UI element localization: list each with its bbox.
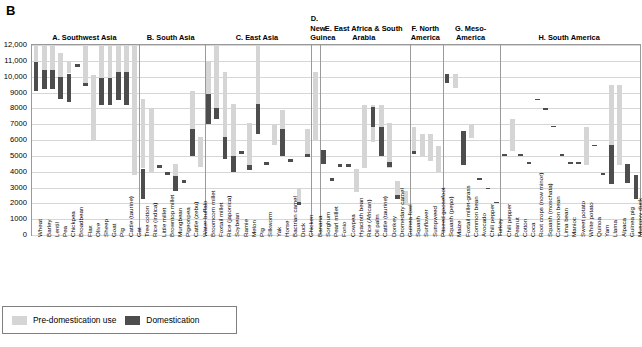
bar-segment-pre-domestication [206,61,211,94]
y-axis-tick-label: 3000 [0,182,27,191]
bar-column[interactable] [42,45,47,235]
bar-segment-domestication [502,154,507,156]
bar-segment-domestication [486,188,491,190]
group-header-a: A. Southwest Asia [31,33,138,42]
bar-segment-domestication [256,104,261,134]
bar-segment-pre-domestication [362,105,367,168]
bar-segment-pre-domestication [428,134,433,161]
bar-column[interactable] [617,45,622,235]
bar-column[interactable] [34,45,39,235]
bar-segment-domestication [330,178,335,181]
x-axis-tick-label: Chickpea [70,211,76,237]
bar-segment-pre-domestication [231,104,236,156]
bar-column[interactable] [568,45,573,235]
x-axis-tick-label: Sumpweed [432,206,438,237]
bar-segment-domestication [206,94,211,124]
bar-segment-domestication [264,162,269,165]
x-axis-tick-label: Rice (japonica) [226,196,232,237]
bar-segment-domestication [321,150,326,164]
bar-column[interactable] [50,45,55,235]
bar-segment-pre-domestication [58,53,63,77]
bar-column[interactable] [527,45,532,235]
x-axis-tick-label: Maize [456,220,462,237]
bar-segment-domestication [461,131,466,166]
bar-segment-pre-domestication [141,99,146,169]
x-axis-tick-label: Silkworm [267,212,273,237]
bar-column[interactable] [264,45,269,235]
bar-segment-pre-domestication [67,62,72,73]
x-axis-tick-label: Manioc [571,217,577,237]
x-axis-tick-label: Tree cotton [144,206,150,237]
bar-segment-domestication [625,164,630,183]
bar-segment-domestication [576,162,581,164]
bar-segment-pre-domestication [436,146,441,171]
x-axis-tick-label: Guinea fowl [407,204,413,237]
bar-segment-pre-domestication [214,45,219,108]
x-axis-tick-label: Cowpea [350,214,356,237]
bar-column[interactable] [346,45,351,235]
bar-segment-domestication [592,145,597,147]
bar-segment-pre-domestication [34,45,39,62]
bar-column[interactable] [420,45,425,235]
bar-segment-domestication [477,178,482,180]
x-axis-tick-label: Lima bean [563,208,569,237]
bar-segment-domestication [609,145,614,185]
x-axis-tick-label: Pig [119,228,125,237]
x-axis-tick-label: Sorghum [325,212,331,237]
y-axis-labels: 010002000300040005000600070008000900010,… [0,44,29,236]
bar-column[interactable] [58,45,63,235]
bar-column[interactable] [272,45,277,235]
bar-segment-domestication [551,126,556,128]
bar-segment-domestication [67,74,72,103]
bar-segment-domestication [560,154,565,156]
bar-segment-domestication [99,78,104,105]
bar-column[interactable] [518,45,523,235]
y-axis-tick-label: 9000 [0,87,27,96]
bar-column[interactable] [91,45,96,235]
bar-segment-domestication [124,72,129,105]
y-axis-tick-label: 1000 [0,214,27,223]
x-axis-tick-label: Chicken [308,215,314,237]
group-header-f: F. North America [409,24,442,42]
legend-swatch-domestication [125,316,140,325]
bar-segment-pre-domestication [354,169,359,193]
bar-segment-domestication [42,70,47,89]
bar-column[interactable] [99,45,104,235]
bar-column[interactable] [116,45,121,235]
bar-column[interactable] [239,45,244,235]
y-axis-tick-label: 12,000 [0,40,27,49]
bar-column[interactable] [247,45,252,235]
bar-column[interactable] [313,45,318,235]
bar-segment-domestication [141,169,146,199]
x-axis-tick-label: Pigeonpea [185,207,191,237]
bar-segment-pre-domestication [313,72,318,140]
bar-column[interactable] [609,45,614,235]
bar-column[interactable] [321,45,326,235]
bar-segment-pre-domestication [256,45,261,104]
bar-segment-domestication [182,180,187,183]
bar-segment-pre-domestication [412,127,417,152]
x-axis-tick-label: Pearl millet [333,206,339,237]
x-axis-tick-label: Goat [111,224,117,237]
bar-column[interactable] [108,45,113,235]
x-axis-tick-label: Quinoa [596,217,602,237]
bar-column[interactable] [601,45,606,235]
bar-segment-pre-domestication [116,45,121,72]
x-axis-tick-label: Lentil [54,222,60,237]
bar-segment-domestication [280,129,285,156]
bar-segment-domestication [412,151,417,154]
x-axis-tick-label: Pig [259,228,265,237]
bar-segment-pre-domestication [50,45,55,70]
bar-column[interactable] [305,45,310,235]
x-axis-tick-label: Chili pepper [506,204,512,237]
bar-column[interactable] [256,45,261,235]
x-axis-tick-label: Banana [317,216,323,237]
group-header-c: C. East Asia [204,33,311,42]
bar-column[interactable] [280,45,285,235]
bar-segment-domestication [387,162,392,167]
x-axis-tick-label: Melon [251,220,257,237]
bar-column[interactable] [67,45,72,235]
x-axis-tick-label: Cattle (taurine) [382,196,388,237]
bar-segment-domestication [157,165,162,168]
x-axis-tick-label: Donkey [391,216,397,237]
